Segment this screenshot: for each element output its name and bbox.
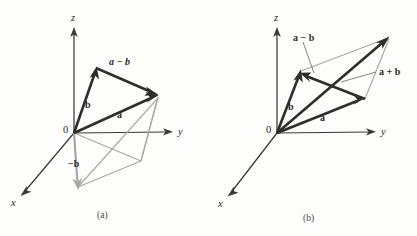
y-axis-label-a: y bbox=[177, 126, 183, 137]
vector-label-a-plus-b-b: a + b bbox=[379, 66, 401, 77]
construction-lines-a bbox=[74, 97, 158, 187]
x-axis-label-b: x bbox=[217, 198, 223, 209]
vector-label-a-b: a bbox=[320, 112, 325, 123]
z-axis-b bbox=[273, 27, 281, 133]
vector-label-b-a: b bbox=[85, 99, 91, 110]
vector-label-neg-b-a: −b bbox=[68, 158, 80, 169]
y-axis-a bbox=[74, 128, 173, 135]
vector-label-a-minus-b-b: a − b bbox=[293, 32, 315, 43]
x-axis-b bbox=[228, 133, 278, 197]
panel-b: z y x 0 b a bbox=[208, 0, 417, 236]
caption-b: (b) bbox=[303, 213, 314, 224]
vector-label-b-b: b bbox=[288, 101, 294, 112]
origin-label-a: 0 bbox=[63, 124, 68, 135]
origin-label-b: 0 bbox=[266, 124, 271, 135]
x-axis-a bbox=[21, 133, 75, 196]
vector-label-a-a: a bbox=[117, 109, 122, 120]
z-axis-label-b: z bbox=[273, 12, 278, 23]
vector-a-plus-b-b bbox=[277, 37, 390, 134]
x-axis-label-a: x bbox=[10, 197, 16, 208]
y-axis-label-b: y bbox=[380, 126, 386, 137]
vector-a-minus-b-a bbox=[96, 68, 159, 96]
y-axis-b bbox=[277, 128, 376, 135]
panel-a: z y x 0 −b bbox=[0, 0, 209, 236]
vector-label-a-minus-b-a: a − b bbox=[109, 56, 130, 67]
z-axis-a bbox=[70, 27, 78, 133]
vector-a-minus-b-b bbox=[300, 72, 366, 99]
z-axis-label-a: z bbox=[70, 12, 75, 23]
caption-a: (a) bbox=[97, 210, 108, 221]
vector-figure: z y x 0 −b bbox=[0, 0, 417, 236]
